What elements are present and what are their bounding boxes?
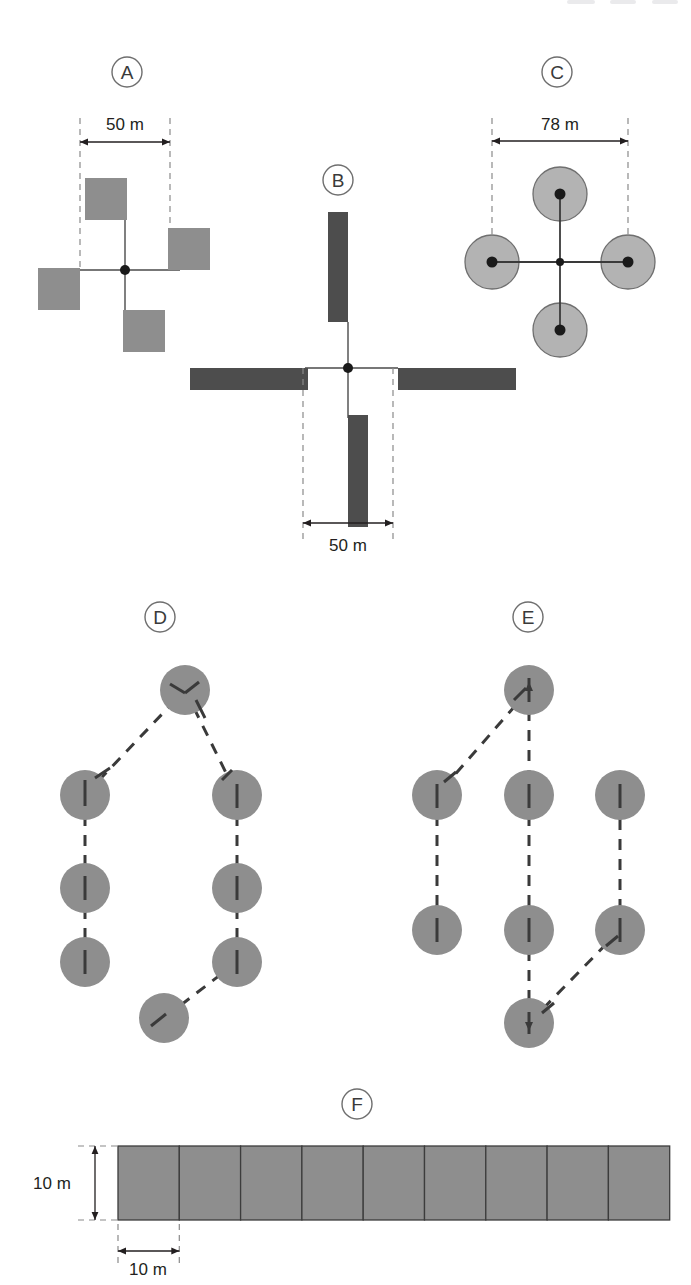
quadrat-cell-9 xyxy=(608,1146,669,1220)
subplot-circle-d-5 xyxy=(139,993,189,1043)
panel-letter-c: C xyxy=(550,62,564,83)
dimension-arrowhead-wleft-f xyxy=(118,1248,126,1255)
scan-artifact-2 xyxy=(610,0,636,4)
dimension-label-height-f: 10 m xyxy=(33,1174,71,1193)
subplot-center-dot-south-c xyxy=(555,325,566,336)
subplot-center-dot-west-c xyxy=(487,257,498,268)
panel-f: F 10 m xyxy=(33,1089,670,1279)
quadrat-cell-7 xyxy=(486,1146,547,1220)
panel-b: B 50 m xyxy=(190,165,516,555)
quadrat-belt-f xyxy=(118,1146,670,1220)
panel-a-letter-badge: A xyxy=(112,57,142,87)
dimension-label-b: 50 m xyxy=(329,536,367,555)
dimension-label-c: 78 m xyxy=(541,115,579,134)
dimension-arrowhead-left-a xyxy=(80,139,88,146)
path-stubs-d xyxy=(85,682,237,1026)
figure-svg: A 50 m B xyxy=(0,0,691,1285)
quadrat-cell-5 xyxy=(363,1146,424,1220)
subplot-square-south-a xyxy=(123,310,165,352)
dimension-label-width-f: 10 m xyxy=(129,1260,167,1279)
dimension-arrowhead-wright-f xyxy=(171,1248,179,1255)
figure-canvas: A 50 m B xyxy=(0,0,691,1285)
dimension-arrowhead-right-a xyxy=(162,139,170,146)
panel-b-letter-badge: B xyxy=(323,165,353,195)
subplot-square-east-a xyxy=(168,228,210,270)
dimension-arrowhead-left-b xyxy=(303,520,311,527)
transect-path-e xyxy=(437,690,620,1023)
panel-letter-f: F xyxy=(351,1094,363,1115)
dimension-label-a: 50 m xyxy=(106,115,144,134)
quadrat-cell-6 xyxy=(425,1146,486,1220)
panel-e-letter-badge: E xyxy=(513,602,543,632)
subplot-circle-d-1 xyxy=(160,665,210,715)
transect-bar-east-b xyxy=(398,368,516,390)
transect-bar-south-b xyxy=(348,415,368,527)
transect-bar-north-b xyxy=(328,212,348,322)
scan-artifact-1 xyxy=(567,0,595,4)
scan-artifact-3 xyxy=(652,0,678,4)
panel-c: C 78 m xyxy=(465,57,655,357)
quadrat-cell-1 xyxy=(118,1146,179,1220)
panel-f-letter-badge: F xyxy=(342,1089,372,1119)
quadrat-cell-4 xyxy=(302,1146,363,1220)
panel-c-letter-badge: C xyxy=(542,57,572,87)
dimension-arrowhead-up-f xyxy=(92,1146,99,1154)
panel-d-letter-badge: D xyxy=(145,602,175,632)
panel-d: D xyxy=(60,602,262,1043)
dimension-arrowhead-down-f xyxy=(92,1212,99,1220)
quadrat-cell-2 xyxy=(179,1146,240,1220)
subplot-square-north-a xyxy=(85,178,127,220)
panel-letter-b: B xyxy=(332,170,345,191)
dimension-arrowhead-right-b xyxy=(385,520,393,527)
panel-letter-e: E xyxy=(522,607,535,628)
plot-center-dot-b xyxy=(343,363,353,373)
dimension-arrowhead-right-c xyxy=(620,138,628,145)
dimension-arrowhead-left-c xyxy=(492,138,500,145)
panel-letter-d: D xyxy=(153,607,167,628)
subplot-center-dot-east-c xyxy=(623,257,634,268)
plot-center-dot-c xyxy=(556,258,564,266)
panel-letter-a: A xyxy=(121,62,134,83)
quadrat-cell-3 xyxy=(241,1146,302,1220)
subplot-square-west-a xyxy=(38,268,80,310)
panel-e: E xyxy=(412,602,645,1048)
panel-a: A 50 m xyxy=(38,57,210,352)
transect-bar-west-b xyxy=(190,368,308,390)
plot-center-dot-a xyxy=(120,265,130,275)
quadrat-cell-8 xyxy=(547,1146,608,1220)
subplot-center-dot-north-c xyxy=(555,189,566,200)
